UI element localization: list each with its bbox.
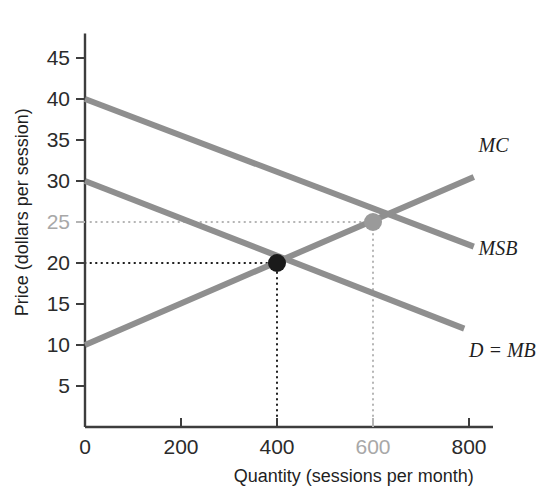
y-tick-label-10: 10 — [47, 333, 70, 356]
y-axis-title: Price (dollars per session) — [12, 108, 32, 316]
curve-label-d-mb: D = MB — [468, 339, 536, 361]
y-tick-label-15: 15 — [47, 292, 70, 315]
curve-label-msb: MSB — [478, 237, 518, 259]
point-efficient-equilibrium — [364, 213, 382, 231]
curve-label-mc: MC — [478, 134, 510, 156]
y-tick-label-5: 5 — [58, 374, 70, 397]
y-tick-label-25: 25 — [47, 210, 70, 233]
x-tick-label-400: 400 — [259, 435, 294, 458]
x-tick-label-0: 0 — [79, 435, 91, 458]
x-tick-label-600: 600 — [355, 435, 390, 458]
x-tick-label-800: 800 — [451, 435, 486, 458]
point-private-equilibrium — [268, 254, 286, 272]
economics-chart-figure: 510152025303540450200400600800MSBD = MBM… — [0, 0, 540, 499]
y-tick-label-40: 40 — [47, 87, 70, 110]
curve-msb — [85, 99, 474, 247]
chart-canvas: 510152025303540450200400600800MSBD = MBM… — [0, 0, 540, 499]
x-axis-title: Quantity (sessions per month) — [234, 466, 474, 486]
y-tick-label-20: 20 — [47, 251, 70, 274]
x-tick-label-200: 200 — [163, 435, 198, 458]
y-tick-label-35: 35 — [47, 128, 70, 151]
y-tick-label-30: 30 — [47, 169, 70, 192]
y-tick-label-45: 45 — [47, 46, 70, 69]
